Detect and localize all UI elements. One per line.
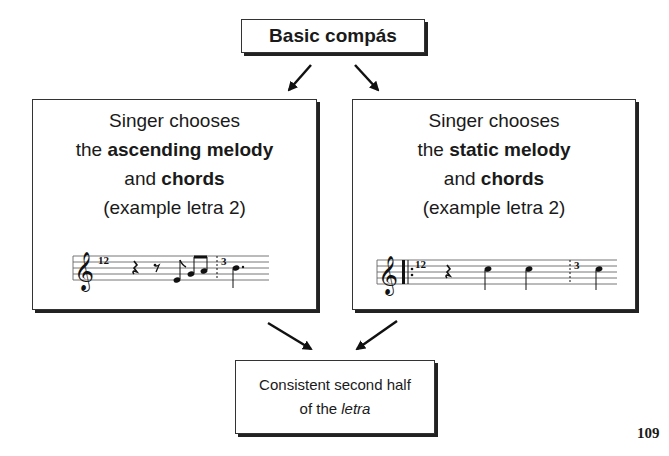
left-line-1: Singer chooses [33,106,316,135]
quarter-rest-icon [446,265,450,278]
page-number: 109 [637,425,660,442]
node-ascending-melody: Singer chooses the ascending melody and … [32,99,317,310]
bottom-line-2-prefix: of the [300,400,342,417]
arrow-left-to-bottom [268,323,311,349]
measure-number-3: 3 [574,259,580,271]
music-staff-ascending: 𝄞 12 3 [71,244,271,300]
bottom-line-1: Consistent second half [236,373,434,397]
measure-number-12: 12 [98,254,110,266]
treble-clef-icon: 𝄞 [74,250,94,292]
left-line-3: and chords [33,164,316,193]
measure-number-12: 12 [415,258,427,270]
right-line-2-prefix: the [417,139,449,160]
node-basic-compas: Basic compás [241,19,425,53]
node-ascending-melody-text: Singer chooses the ascending melody and … [33,100,316,222]
bottom-line-2-italic: letra [341,400,370,417]
music-staff-static: 𝄞 12 3 [375,248,620,304]
right-line-2-bold: static melody [449,139,570,160]
quarter-rest-icon [133,261,137,274]
left-line-3-prefix: and [124,168,161,189]
node-static-melody-text: Singer chooses the static melody and cho… [353,100,635,222]
left-line-2: the ascending melody [33,135,316,164]
treble-clef-icon: 𝄞 [378,254,398,296]
left-line-4: (example letra 2) [33,193,316,222]
left-line-2-prefix: the [76,139,108,160]
repeat-start-barline [402,260,405,284]
left-line-2-bold: ascending melody [107,139,273,160]
right-line-2: the static melody [353,135,635,164]
arrow-right-to-bottom [357,321,397,349]
arrow-top-to-right [355,65,378,90]
node-static-melody: Singer chooses the static melody and cho… [352,99,636,310]
measure-number-3: 3 [221,255,227,267]
bottom-line-2: of the letra [236,397,434,421]
right-line-3-bold: chords [481,168,544,189]
right-line-4: (example letra 2) [353,193,635,222]
right-line-3: and chords [353,164,635,193]
node-basic-compas-label: Basic compás [269,25,397,46]
left-line-3-bold: chords [161,168,224,189]
node-consistent-second-half: Consistent second half of the letra [235,360,435,434]
right-line-3-prefix: and [444,168,481,189]
arrow-top-to-left [289,65,311,90]
right-line-1: Singer chooses [353,106,635,135]
